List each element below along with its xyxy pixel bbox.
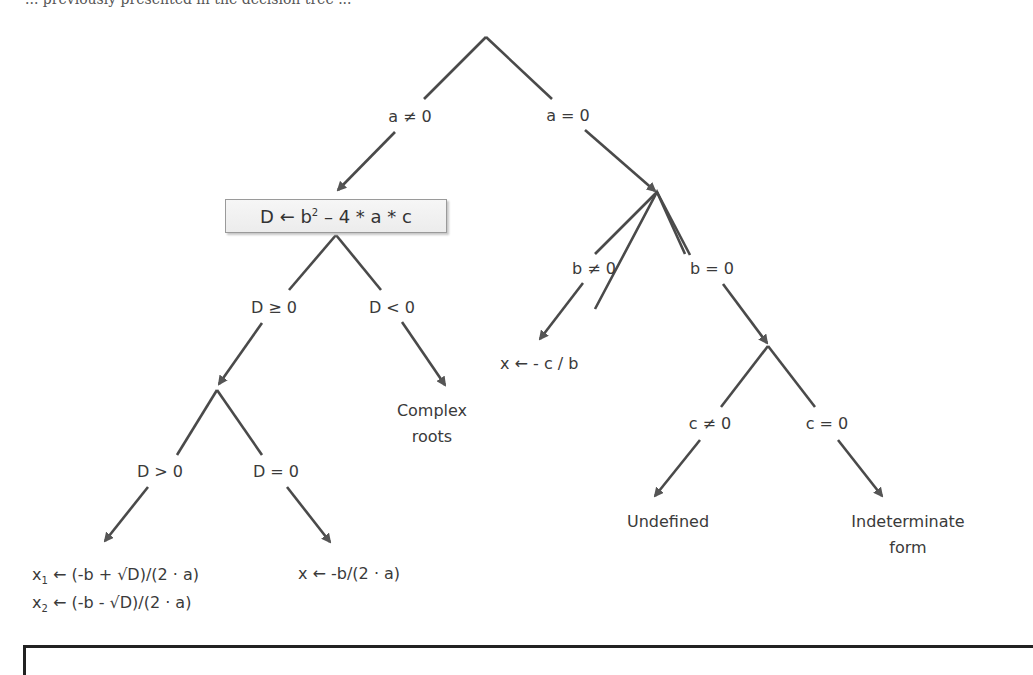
- result-complex-roots: Complex roots: [397, 398, 467, 450]
- result-single-root: x ← -b/(2 · a): [298, 564, 400, 584]
- branch-c-zero: c = 0: [806, 414, 849, 434]
- branch-b-zero: b = 0: [690, 259, 734, 279]
- result-undefined: Undefined: [627, 512, 709, 532]
- branch-a-nonzero: a ≠ 0: [388, 107, 432, 127]
- result-two-roots: x1 ← (-b + √D)/(2 · a) x2 ← (-b - √D)/(2…: [32, 564, 199, 620]
- result-linear-root: x ← - c / b: [500, 354, 578, 374]
- root-x1: x1 ← (-b + √D)/(2 · a): [32, 564, 199, 592]
- root-x2: x2 ← (-b - √D)/(2 · a): [32, 592, 199, 620]
- branch-d-neg: D < 0: [369, 298, 415, 318]
- branch-b-nonzero: b ≠ 0: [572, 259, 616, 279]
- branch-c-nonzero: c ≠ 0: [689, 414, 732, 434]
- branch-d-positive: D > 0: [137, 462, 183, 482]
- result-indeterminate: Indeterminate form: [851, 509, 964, 561]
- branch-a-zero: a = 0: [546, 106, 590, 126]
- branch-d-zero: D = 0: [253, 462, 299, 482]
- bottom-frame-border: [23, 645, 1033, 675]
- discriminant-formula: D ← b2 – 4 * a * c: [226, 206, 446, 227]
- discriminant-box: D ← b2 – 4 * a * c: [225, 199, 447, 233]
- branch-d-nonneg: D ≥ 0: [251, 298, 297, 318]
